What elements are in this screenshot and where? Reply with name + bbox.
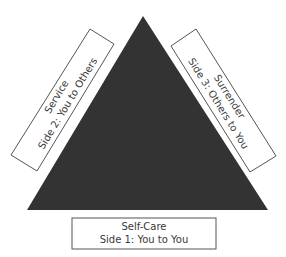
triangle-diagram: Service Side 2: You to Others Surrender … [0,0,286,257]
side1-title: Self-Care [121,221,166,232]
side1-subtitle: Side 1: You to You [100,234,189,245]
side1-label-box: Self-Care Side 1: You to You [72,218,216,249]
